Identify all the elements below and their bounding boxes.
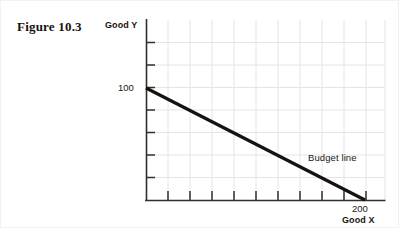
x-axis-title: Good X xyxy=(342,215,375,225)
x-axis-ticks xyxy=(168,191,366,200)
y-axis-ticks xyxy=(146,43,155,178)
x-axis-tick-label-200: 200 xyxy=(352,203,368,214)
y-axis-title: Good Y xyxy=(105,20,137,30)
plot-area xyxy=(146,20,386,201)
figure-page: Figure 10.3 Good Y Good X xyxy=(0,0,400,229)
budget-line-annotation: Budget line xyxy=(308,152,357,163)
y-axis-tick-label-100: 100 xyxy=(118,82,134,93)
figure-caption: Figure 10.3 xyxy=(17,19,82,35)
budget-line-chart xyxy=(146,20,386,201)
